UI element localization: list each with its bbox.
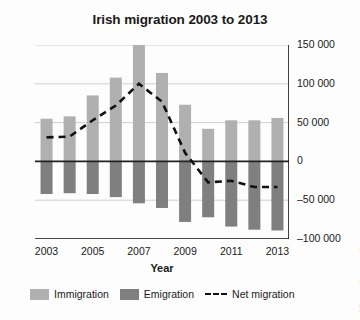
- legend-label: Net migration: [232, 288, 294, 300]
- legend-dashed-line-icon: [205, 293, 227, 295]
- bar-immigration: [87, 95, 99, 161]
- bar-emigration: [271, 161, 283, 230]
- bar-immigration: [41, 119, 53, 162]
- y-axis-tick-label: 50 000: [297, 116, 329, 128]
- bar-emigration: [87, 161, 99, 194]
- bar-emigration: [110, 161, 122, 197]
- legend-label: Emigration: [144, 288, 194, 300]
- chart-title: Irish migration 2003 to 2013: [0, 12, 360, 27]
- immigration-bars: [41, 45, 284, 161]
- x-axis-tick-label: 2005: [73, 245, 113, 257]
- bar-emigration: [179, 161, 191, 222]
- emigration-bars: [41, 161, 284, 230]
- bar-immigration: [248, 120, 260, 161]
- bar-emigration: [41, 161, 53, 194]
- legend-label: Immigration: [54, 288, 109, 300]
- legend-item: Net migration: [205, 288, 294, 300]
- legend-swatch-icon: [30, 289, 49, 300]
- plot-area: [35, 45, 289, 239]
- x-axis-tick-label: 2009: [165, 245, 205, 257]
- x-axis-tick-label: 2013: [257, 245, 297, 257]
- bar-emigration: [156, 161, 168, 208]
- bar-immigration: [110, 78, 122, 162]
- y-axis-title-host: No. of people: [342, 90, 356, 200]
- bar-immigration: [64, 116, 76, 161]
- bar-immigration: [202, 129, 214, 162]
- bar-emigration: [225, 161, 237, 226]
- legend-item: Emigration: [120, 288, 194, 300]
- bar-emigration: [248, 161, 260, 229]
- bar-immigration: [225, 120, 237, 161]
- y-axis-tick-label: –100 000: [297, 232, 341, 244]
- x-axis-tick-label: 2007: [119, 245, 159, 257]
- x-axis-title: Year: [35, 262, 289, 274]
- chart-legend: ImmigrationEmigrationNet migration: [30, 288, 330, 300]
- y-axis-tick-label: 0: [297, 154, 303, 166]
- x-axis-tick-label: 2011: [211, 245, 251, 257]
- y-axis-tick-label: –50 000: [297, 193, 335, 205]
- y-axis-tick-label: 100 000: [297, 77, 335, 89]
- bar-emigration: [202, 161, 214, 217]
- bar-immigration: [271, 118, 283, 161]
- plot-svg: [35, 45, 289, 239]
- bar-immigration: [133, 45, 145, 161]
- bar-emigration: [64, 161, 76, 193]
- y-axis-tick-label: 150 000: [297, 38, 335, 50]
- chart-figure: Irish migration 2003 to 2013 150 000100 …: [0, 0, 360, 320]
- legend-item: Immigration: [30, 288, 109, 300]
- bar-immigration: [156, 73, 168, 161]
- bar-emigration: [133, 161, 145, 203]
- legend-swatch-icon: [120, 289, 139, 300]
- x-axis-tick-label: 2003: [27, 245, 67, 257]
